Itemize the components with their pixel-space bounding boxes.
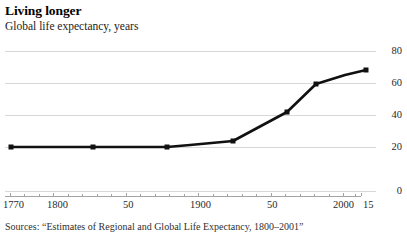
chart-figure: Living longer Global life expectancy, ye… bbox=[0, 0, 407, 233]
gridlines bbox=[5, 51, 376, 191]
life-expectancy-line bbox=[11, 70, 366, 147]
plot-area: 80 60 40 20 0 1770 1800 50 1900 50 2000 … bbox=[0, 0, 407, 233]
y-tick-label-60: 60 bbox=[372, 78, 402, 89]
y-tick-label-40: 40 bbox=[372, 110, 402, 121]
x-tick-label-1850: 50 bbox=[123, 199, 134, 210]
y-tick-label-80: 80 bbox=[372, 46, 402, 57]
x-tick-label-1900: 1900 bbox=[190, 199, 211, 210]
x-tick-label-1770: 1770 bbox=[3, 199, 24, 210]
x-tick-label-1950: 50 bbox=[267, 199, 278, 210]
data-point-markers bbox=[9, 68, 369, 150]
x-axis-ticks bbox=[10, 193, 361, 197]
x-tick-label-2000: 2000 bbox=[333, 199, 354, 210]
x-tick-label-1800: 1800 bbox=[47, 199, 68, 210]
x-tick-label-2015: 15 bbox=[363, 199, 374, 210]
y-tick-label-20: 20 bbox=[372, 142, 402, 153]
y-tick-label-0: 0 bbox=[372, 186, 402, 197]
chart-source-note: Sources: “Estimates of Regional and Glob… bbox=[5, 221, 405, 233]
